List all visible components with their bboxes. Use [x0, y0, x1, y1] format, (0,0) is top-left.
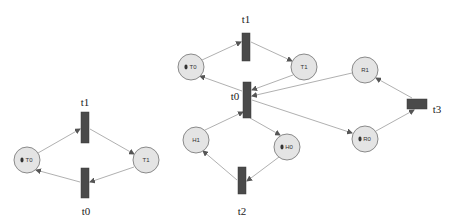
transition-bar[interactable]: [242, 33, 250, 61]
transition-label: t1: [242, 13, 251, 25]
transition-bar[interactable]: [81, 112, 89, 143]
transition-label: t1: [81, 96, 90, 108]
transition-label: t0: [82, 205, 91, 217]
arc-t1-to-t0: [90, 167, 134, 182]
transition-t1[interactable]: t1: [81, 96, 90, 143]
right-net: t1t0t2t3T0T1H1H0R1R0: [178, 13, 442, 217]
token-icon: [280, 145, 283, 150]
place-label: R0: [363, 136, 371, 142]
arc-t0-to-t0: [36, 170, 80, 182]
place-H0[interactable]: H0: [274, 134, 300, 160]
transition-bar[interactable]: [81, 168, 89, 198]
transition-label: t0: [231, 90, 240, 102]
arc-t1-to-t1: [251, 42, 292, 61]
token-icon: [20, 158, 23, 163]
place-R0[interactable]: R0: [352, 126, 378, 152]
place-R1[interactable]: R1: [352, 57, 378, 83]
transition-t3[interactable]: t3: [407, 99, 442, 115]
place-label: T0: [189, 64, 197, 70]
token-icon: [184, 65, 187, 70]
arc-t1-to-t1: [90, 129, 134, 154]
place-T0[interactable]: T0: [14, 147, 40, 173]
transition-bar[interactable]: [243, 82, 251, 118]
token-icon: [358, 137, 361, 142]
transition-t0[interactable]: t0: [81, 168, 91, 217]
place-label: T0: [25, 157, 33, 163]
place-label: H1: [192, 137, 200, 143]
arc-h1-to-t0: [205, 112, 243, 130]
place-T0[interactable]: T0: [178, 54, 204, 80]
transition-bar[interactable]: [407, 99, 427, 109]
transition-label: t3: [433, 103, 442, 115]
left-net: t1t0T0T1: [14, 96, 159, 217]
place-label: R1: [361, 67, 369, 73]
transition-t1[interactable]: t1: [242, 13, 251, 61]
arc-r0-to-t3: [376, 110, 414, 131]
place-label: T1: [300, 64, 308, 70]
transition-bar[interactable]: [238, 167, 246, 194]
place-label: T1: [142, 157, 150, 163]
arc-t2-to-h1: [203, 151, 237, 180]
arc-t0-to-t1: [202, 42, 241, 60]
place-H1[interactable]: H1: [183, 127, 209, 153]
arc-t3-to-r1: [376, 78, 412, 98]
arc-t0-to-t1: [38, 129, 80, 153]
transition-label: t2: [238, 205, 247, 217]
place-label: H0: [285, 144, 293, 150]
place-T1[interactable]: T1: [133, 147, 159, 173]
place-T1[interactable]: T1: [291, 54, 317, 80]
arc-h0-to-t2: [247, 157, 279, 181]
transition-t2[interactable]: t2: [238, 167, 247, 217]
petri-net-canvas: t1t0T0T1t1t0t2t3T0T1H1H0R1R0: [0, 0, 451, 224]
arc-t0-to-h0: [250, 118, 280, 135]
